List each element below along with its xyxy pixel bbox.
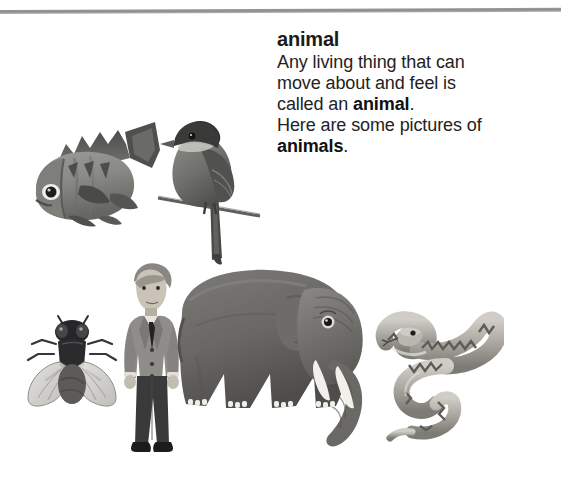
definition-line-5-emphasis: animals [277, 136, 343, 156]
definition-line-5-post: . [343, 136, 348, 156]
definition-line-5: animals. [277, 136, 539, 157]
definition-line-4: Here are some pictures of [277, 115, 539, 136]
bird-illustration [156, 96, 266, 271]
horizontal-rule [0, 8, 561, 14]
fly-illustration [26, 310, 118, 410]
definition-line-1: Any living thing that can [277, 52, 539, 73]
snake-illustration [372, 302, 504, 442]
definition-line-3-post: . [410, 94, 415, 114]
definition-line-3: called an animal. [277, 94, 539, 115]
definition-block: animal Any living thing that can move ab… [277, 28, 539, 157]
definition-line-2: move about and feel is [277, 73, 539, 94]
fish-illustration [22, 110, 162, 230]
dictionary-page: animal Any living thing that can move ab… [0, 0, 561, 482]
definition-line-3-pre: called an [277, 94, 353, 114]
elephant-illustration [176, 256, 376, 461]
page-title: animal [277, 28, 539, 50]
definition-line-3-emphasis: animal [353, 94, 409, 114]
